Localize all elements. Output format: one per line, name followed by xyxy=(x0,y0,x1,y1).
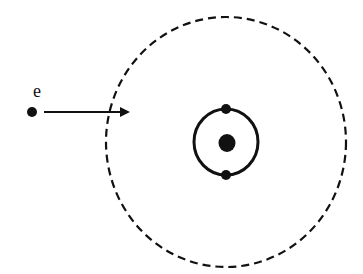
orbit-electron-top xyxy=(221,104,231,114)
orbit-electron-bottom xyxy=(221,170,231,180)
nucleus xyxy=(219,134,236,152)
electron-label: e xyxy=(33,81,41,101)
incoming-electron xyxy=(27,107,37,117)
atom-diagram: e xyxy=(0,0,363,274)
